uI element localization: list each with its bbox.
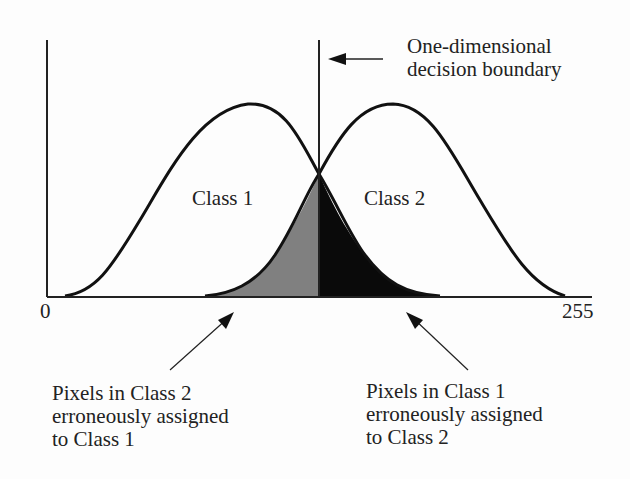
right-note-line2: erroneously assigned [366, 403, 543, 425]
right-note-arrow [413, 318, 468, 370]
left-note-arrow [170, 318, 228, 370]
right-note-arrowhead-icon [406, 312, 423, 329]
left-note-line2: erroneously assigned [52, 405, 229, 427]
right-note-line1: Pixels in Class 1 [366, 380, 505, 402]
left-note-line3: to Class 1 [52, 428, 135, 450]
right-note-line3: to Class 2 [366, 426, 449, 448]
boundary-arrowhead-icon [328, 53, 346, 65]
diagram: One-dimensional decision boundary Class … [0, 0, 630, 479]
left-note-arrowhead-icon [218, 312, 234, 329]
x-axis-min-label: 0 [40, 300, 51, 322]
class1-label: Class 1 [192, 187, 253, 209]
boundary-label-line1: One-dimensional [407, 35, 552, 57]
class2-label: Class 2 [364, 187, 425, 209]
left-note-line1: Pixels in Class 2 [52, 382, 191, 404]
boundary-label-line2: decision boundary [407, 58, 562, 80]
x-axis-max-label: 255 [562, 300, 594, 322]
